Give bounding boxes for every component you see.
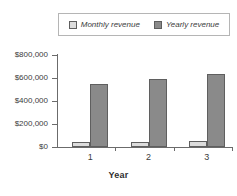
y-tick-label: $800,000 bbox=[15, 51, 48, 59]
chart-legend: Monthly revenue Yearly revenue bbox=[58, 13, 230, 36]
x-tick-mark bbox=[174, 147, 175, 151]
x-tick-label: 3 bbox=[189, 153, 225, 162]
legend-item-monthly-revenue: Monthly revenue bbox=[69, 21, 140, 29]
x-axis-line bbox=[57, 147, 233, 148]
bar-chart: Monthly revenue Yearly revenue $800,000$… bbox=[0, 0, 237, 196]
legend-item-yearly-revenue: Yearly revenue bbox=[154, 21, 219, 29]
bar-yearly-3 bbox=[207, 74, 225, 147]
x-tick-label: 2 bbox=[131, 153, 167, 162]
bar-monthly-1 bbox=[72, 142, 90, 147]
y-tick-label: $600,000 bbox=[15, 74, 48, 82]
y-tick-label: $0 bbox=[39, 143, 48, 151]
bar-monthly-3 bbox=[189, 141, 207, 147]
bar-monthly-2 bbox=[131, 142, 149, 147]
x-tick-mark bbox=[115, 147, 116, 151]
bar-yearly-1 bbox=[90, 84, 108, 147]
legend-swatch-icon-yearly bbox=[154, 21, 162, 29]
bar-group bbox=[131, 55, 167, 147]
legend-swatch-icon-monthly bbox=[69, 21, 77, 29]
x-axis-title: Year bbox=[0, 170, 237, 180]
legend-label-monthly: Monthly revenue bbox=[81, 21, 140, 29]
y-tick-mark bbox=[52, 147, 57, 148]
y-tick-label: $400,000 bbox=[15, 97, 48, 105]
bar-yearly-2 bbox=[149, 79, 167, 147]
x-tick-mark bbox=[232, 147, 233, 151]
plot-area bbox=[57, 55, 232, 147]
bar-group bbox=[189, 55, 225, 147]
y-tick-label: $200,000 bbox=[15, 120, 48, 128]
bar-group bbox=[72, 55, 108, 147]
legend-label-yearly: Yearly revenue bbox=[166, 21, 219, 29]
x-tick-label: 1 bbox=[72, 153, 108, 162]
